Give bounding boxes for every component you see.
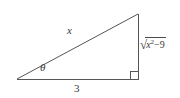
right-angle-marker-icon xyxy=(130,71,138,79)
opposite-leg-label: √x2−9 xyxy=(140,37,166,51)
triangle-figure: x θ 3 √x2−9 xyxy=(0,0,180,98)
angle-theta-label: θ xyxy=(40,62,45,73)
radicand: x2−9 xyxy=(145,37,166,50)
base-length-label: 3 xyxy=(74,83,80,94)
triangle-hypotenuse-line xyxy=(17,14,138,79)
hypotenuse-label: x xyxy=(67,25,72,36)
radical-expression: √x2−9 xyxy=(140,37,166,51)
radicand-number: 9 xyxy=(160,39,165,50)
